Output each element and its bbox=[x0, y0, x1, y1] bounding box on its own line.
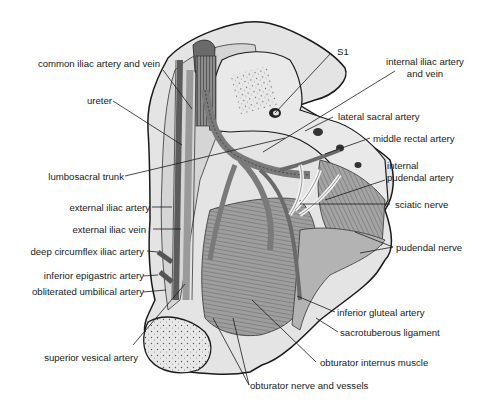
label-deep-circumflex-iliac-artery: deep circumflex iliac artery bbox=[30, 246, 144, 257]
label-inferior-epigastric-artery: inferior epigastric artery bbox=[44, 270, 144, 281]
label-sciatic-nerve: sciatic nerve bbox=[395, 199, 448, 210]
label-superior-vesical-artery: superior vesical artery bbox=[44, 352, 138, 363]
sacral-foramen bbox=[313, 128, 323, 136]
label-internal-pudendal-artery-line2: pudendal artery bbox=[387, 172, 454, 183]
label-obturator-internus-muscle: obturator internus muscle bbox=[320, 357, 428, 368]
label-s1: S1 bbox=[337, 46, 349, 57]
label-sacrotuberous-ligament: sacrotuberous ligament bbox=[340, 327, 440, 338]
label-obturator-nerve-and-vessels: obturator nerve and vessels bbox=[250, 380, 368, 391]
sacral-foramen bbox=[355, 162, 362, 168]
pelvis-anatomy-figure: common iliac artery and vein ureter lumb… bbox=[0, 0, 485, 409]
label-internal-pudendal-artery-line1: internal bbox=[387, 160, 418, 171]
label-pudendal-nerve: pudendal nerve bbox=[396, 242, 462, 253]
label-external-iliac-artery: external iliac artery bbox=[69, 202, 150, 213]
label-lateral-sacral-artery: lateral sacral artery bbox=[338, 111, 420, 122]
label-internal-iliac-vein: and vein bbox=[375, 68, 475, 79]
label-internal-iliac-artery: internal iliac artery bbox=[375, 56, 475, 67]
label-obliterated-umbilical-artery: obliterated umbilical artery bbox=[32, 286, 144, 297]
label-common-iliac-artery-vein: common iliac artery and vein bbox=[38, 58, 160, 69]
label-inferior-gluteal-artery: inferior gluteal artery bbox=[337, 307, 424, 318]
external-iliac-vein-vessel bbox=[186, 70, 190, 300]
label-external-iliac-vein: external iliac vein bbox=[72, 224, 146, 235]
label-lumbosacral-trunk: lumbosacral trunk bbox=[48, 171, 124, 182]
label-middle-rectal-artery: middle rectal artery bbox=[373, 133, 455, 144]
label-ureter: ureter bbox=[87, 95, 112, 106]
external-iliac-artery-vessel bbox=[176, 60, 180, 300]
